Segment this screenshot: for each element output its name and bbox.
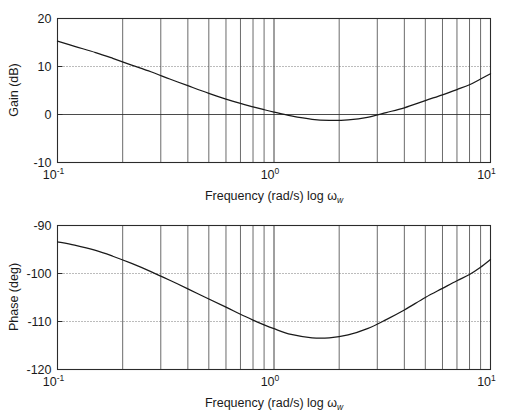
phase-x-tick-base: 10 (261, 375, 275, 389)
bode-plot-figure: 20100-10 10-1100101 Gain (dB) Frequency … (0, 0, 505, 416)
phase-plot-svg: -90-100-110-120 10-1100101 Phase (deg) F… (0, 207, 505, 416)
gain-y-tick-label: 10 (38, 60, 52, 74)
gain-plot-svg: 20100-10 10-1100101 Gain (dB) Frequency … (0, 0, 505, 210)
phase-x-axis-label-main: Frequency (rad/s) log ω (205, 396, 337, 410)
phase-x-tick-label: 10-1 (43, 373, 65, 389)
gain-x-tick-exponent: -1 (57, 166, 65, 176)
gain-x-tick-base: 10 (43, 168, 57, 182)
phase-x-axis-label-sub: w (337, 402, 344, 412)
gain-minor-gridlines (123, 19, 481, 163)
gain-y-tick-label: 20 (38, 12, 52, 26)
gain-x-axis-label: Frequency (rad/s) log ωw (205, 189, 344, 205)
phase-x-tick-labels: 10-1100101 (43, 373, 496, 389)
phase-y-tick-label: -90 (33, 219, 51, 233)
phase-x-tick-base: 10 (477, 375, 491, 389)
gain-y-tick-labels: 20100-10 (33, 12, 62, 170)
gain-x-tick-label: 101 (477, 166, 496, 182)
gain-x-axis-label-sub: w (337, 195, 344, 205)
gain-x-tick-exponent: 1 (491, 166, 496, 176)
gain-y-axis-label: Gain (dB) (7, 63, 21, 117)
phase-x-tick-label: 100 (261, 373, 280, 389)
phase-plot-panel: -90-100-110-120 10-1100101 Phase (deg) F… (0, 207, 505, 416)
phase-x-tick-exponent: 1 (491, 373, 496, 383)
gain-x-tick-label: 100 (261, 166, 280, 182)
gain-x-tick-label: 10-1 (43, 166, 65, 182)
phase-minor-gridlines (123, 226, 481, 370)
phase-x-tick-exponent: 0 (275, 373, 280, 383)
gain-x-axis-label-main: Frequency (rad/s) log ω (205, 189, 337, 203)
phase-x-tick-exponent: -1 (57, 373, 65, 383)
gain-x-tick-base: 10 (477, 168, 491, 182)
gain-x-tick-base: 10 (261, 168, 275, 182)
gain-x-tick-labels: 10-1100101 (43, 166, 496, 182)
phase-x-axis-label: Frequency (rad/s) log ωw (205, 396, 344, 412)
gain-y-tick-label: 0 (45, 108, 52, 122)
gain-x-tick-exponent: 0 (275, 166, 280, 176)
phase-y-tick-label: -110 (27, 315, 51, 329)
phase-x-tick-label: 101 (477, 373, 496, 389)
phase-y-axis-label: Phase (deg) (7, 263, 21, 331)
phase-x-tick-base: 10 (43, 375, 57, 389)
gain-plot-panel: 20100-10 10-1100101 Gain (dB) Frequency … (0, 0, 505, 210)
phase-y-tick-label: -100 (26, 267, 51, 281)
